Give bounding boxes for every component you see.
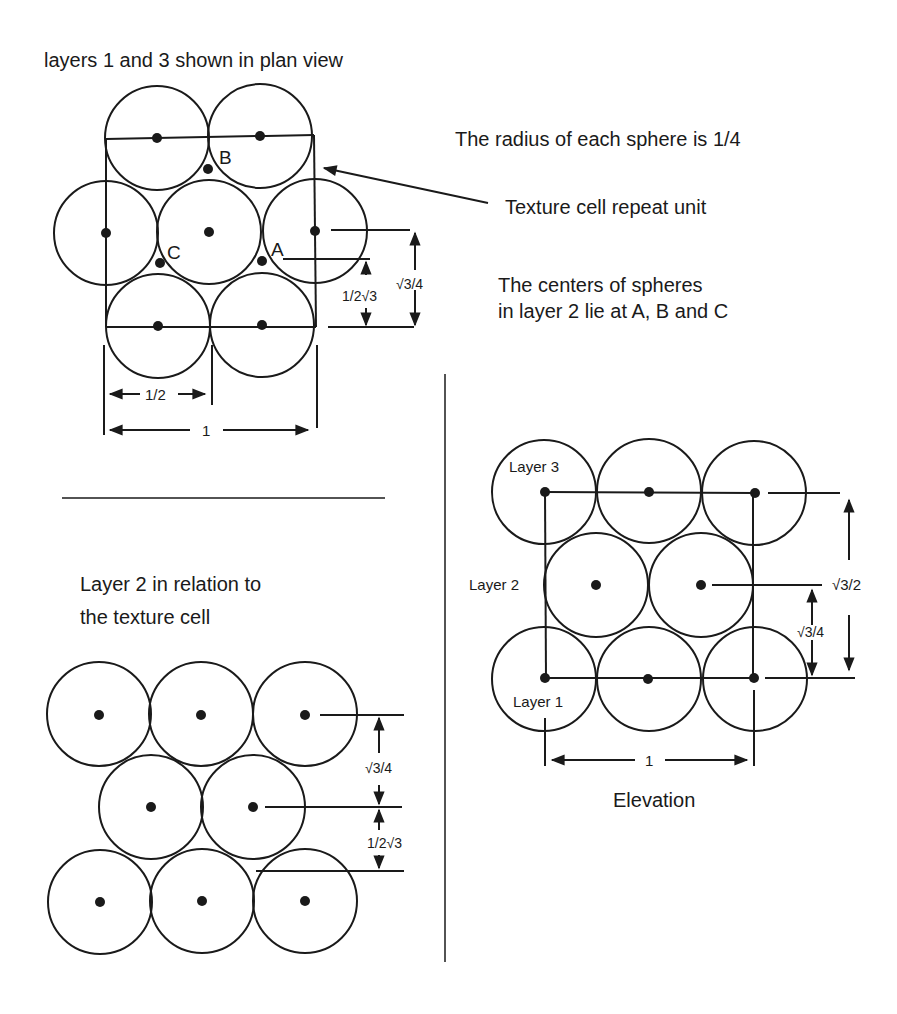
elevation-layer1-label: Layer 1 <box>513 693 563 710</box>
elevation-caption: Elevation <box>613 789 695 811</box>
layer2-dim-sqrt3-4: √3/4 <box>365 760 392 776</box>
radius-note: The radius of each sphere is 1/4 <box>455 128 741 150</box>
plan-view-title: layers 1 and 3 shown in plan view <box>44 49 344 71</box>
centers-note-line1: The centers of spheres <box>498 274 703 296</box>
plan-dim-one: 1 <box>202 422 210 439</box>
repeat-unit-label: Texture cell repeat unit <box>505 196 707 218</box>
elevation-layer2-label: Layer 2 <box>469 576 519 593</box>
point-b <box>203 164 213 174</box>
elevation-dim-sqrt3-2: √3/2 <box>832 576 861 593</box>
elevation-dim-sqrt3-4: √3/4 <box>797 624 824 640</box>
plan-dim-inv-sqrt3: 1/2√3 <box>342 288 377 304</box>
plan-dim-sqrt3-4: √3/4 <box>396 276 423 292</box>
layer2-title-line2: the texture cell <box>80 606 210 628</box>
plan-view-centers <box>101 131 320 331</box>
layer2-title-line1: Layer 2 in relation to <box>80 573 261 595</box>
layer2-dim-inv-sqrt3: 1/2√3 <box>367 835 402 851</box>
centers-note-line2: in layer 2 lie at A, B and C <box>498 300 728 322</box>
plan-dim-half: 1/2 <box>145 386 166 403</box>
point-c <box>155 258 165 268</box>
sphere-packing-diagram: layers 1 and 3 shown in plan view B C A … <box>0 0 897 1014</box>
elevation-layer3-label: Layer 3 <box>509 458 559 475</box>
label-a: A <box>271 239 284 260</box>
point-a <box>257 256 267 266</box>
label-c: C <box>167 242 181 263</box>
label-b: B <box>219 147 232 168</box>
elevation-dim-one: 1 <box>645 752 653 769</box>
